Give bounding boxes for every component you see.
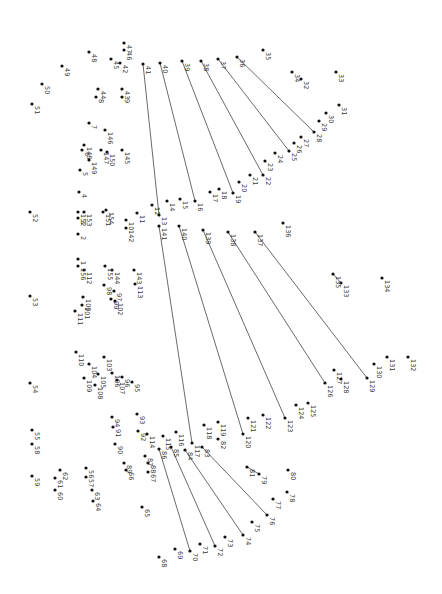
dot-number-label: 126: [326, 385, 334, 397]
dot-number-label: 109: [85, 380, 93, 392]
dot-number-label: 23: [266, 163, 274, 171]
dot-number-label: 83: [203, 449, 211, 457]
puzzle-dot: 19: [231, 191, 242, 203]
dot-number-label: 120: [244, 436, 252, 448]
dot-number-label: 156: [79, 268, 87, 280]
connector-line: [143, 64, 159, 215]
dot-number-label: 86: [160, 451, 168, 459]
puzzle-dot: 24: [273, 151, 284, 163]
puzzle-dot: 121: [246, 416, 257, 432]
dot-number-label: 61: [56, 480, 64, 488]
puzzle-dot: 71: [198, 542, 209, 554]
dot-number-label: 19: [234, 195, 242, 203]
dot-number-label: 154: [107, 212, 115, 224]
dot-number-label: 89: [125, 465, 133, 473]
dot-number-label: 140: [180, 228, 188, 240]
puzzle-dot: 36: [235, 55, 246, 67]
dot-number-label: 123: [286, 420, 294, 432]
dot-number-label: 88: [149, 465, 157, 473]
puzzle-dot: 72: [213, 544, 224, 556]
puzzle-dot: 59: [30, 474, 41, 486]
dot-number-label: 141: [160, 228, 168, 240]
puzzle-dot: 70: [188, 549, 199, 561]
puzzle-dot: 156: [76, 264, 87, 280]
dot-number-label: 73: [226, 539, 234, 547]
puzzle-dot: 104: [87, 362, 98, 378]
dot-number-label: 68: [160, 559, 168, 567]
puzzle-dot: 68: [157, 555, 168, 567]
puzzle-dot: 109: [82, 376, 93, 392]
dot-number-label: 9: [123, 99, 131, 103]
dot-number-label: 102: [116, 303, 124, 315]
dot-number-label: 33: [337, 74, 345, 82]
puzzle-dot: 4: [77, 190, 88, 198]
puzzle-dot: 52: [28, 210, 39, 222]
dot-number-label: 63: [93, 492, 101, 500]
dot-number-label: 2: [79, 236, 87, 240]
dot-number-label: 116: [177, 434, 185, 446]
puzzle-dot: 63: [90, 488, 101, 500]
puzzle-dot: 53: [28, 294, 39, 306]
dot-number-label: 146: [106, 132, 114, 144]
puzzle-dot: 126: [323, 381, 334, 397]
puzzle-dot: 135: [331, 272, 342, 288]
puzzle-dot: 1: [76, 257, 87, 265]
dot-number-label: 20: [240, 184, 248, 192]
dot-number-label: 29: [320, 123, 328, 131]
puzzle-dot: 7: [87, 121, 98, 129]
dot-number-label: 53: [31, 298, 39, 306]
puzzle-dot: 26: [292, 141, 303, 153]
puzzle-dot: 34: [290, 70, 301, 82]
dot-number-label: 4: [80, 194, 88, 198]
dot-number-label: 145: [123, 152, 131, 164]
dot-number-label: 26: [295, 145, 303, 153]
dot-number-label: 72: [216, 548, 224, 556]
puzzle-dot: 145: [120, 148, 131, 164]
dot-number-label: 148: [85, 147, 93, 159]
puzzle-dot: 111: [73, 309, 84, 325]
dot-number-label: 134: [383, 280, 391, 292]
puzzle-dot: 129: [365, 376, 376, 392]
puzzle-dot: 40: [158, 61, 169, 73]
dot-number-label: 41: [144, 66, 152, 74]
puzzle-dot: 123: [283, 416, 294, 432]
dot-number-label: 94: [113, 419, 121, 427]
dot-number-label: 104: [90, 366, 98, 378]
puzzle-dot: 125: [306, 401, 317, 417]
puzzle-dot: 81: [245, 465, 256, 477]
puzzle-dot: 78: [285, 490, 296, 502]
dot-number-label: 54: [31, 385, 39, 393]
dot-number-label: 67: [149, 474, 157, 482]
puzzle-dot: 132: [406, 355, 417, 371]
puzzle-dot: 2: [76, 232, 87, 240]
dot-number-label: 110: [77, 354, 85, 366]
puzzle-dot: 127: [332, 368, 343, 384]
puzzle-dot: 79: [257, 472, 268, 484]
puzzle-dot: 14: [165, 199, 176, 211]
puzzle-dot: 89: [122, 461, 133, 473]
dot-number-label: 95: [133, 384, 141, 392]
dot-number-label: 107: [118, 382, 126, 394]
puzzle-dot: 62: [58, 468, 69, 480]
connector-line: [159, 449, 190, 551]
puzzle-dot: 39: [180, 59, 191, 71]
puzzle-dot: 113: [133, 282, 144, 298]
puzzle-dot: 22: [261, 173, 272, 185]
puzzle-dot: 115: [161, 434, 172, 450]
dot-number-label: 82: [219, 441, 227, 449]
dot-number-label: 31: [340, 107, 348, 115]
dot-number-label: 90: [116, 446, 124, 454]
connector-line: [185, 450, 243, 535]
puzzle-dot: 124: [294, 403, 305, 419]
dot-number-label: 36: [238, 59, 246, 67]
dot-number-label: 27: [302, 139, 310, 147]
dot-number-label: 130: [375, 366, 383, 378]
dot-number-label: 76: [268, 517, 276, 525]
dot-number-label: 59: [33, 478, 41, 486]
puzzle-dot: 128: [339, 377, 350, 393]
puzzle-dot: 73: [223, 535, 234, 547]
dot-number-label: 35: [264, 52, 272, 60]
dot-number-label: 37: [219, 61, 227, 69]
connector-line: [182, 61, 233, 193]
dot-number-label: 15: [181, 201, 189, 209]
